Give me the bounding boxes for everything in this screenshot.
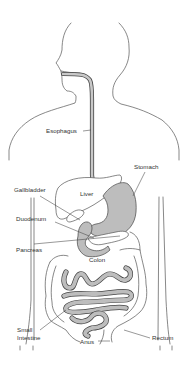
label-rectum: Rectum (152, 334, 173, 341)
label-colon: Colon (89, 256, 105, 263)
label-stomach: Stomach (134, 163, 158, 170)
label-pancreas: Pancreas (16, 246, 42, 253)
label-anus: Anus (80, 338, 94, 345)
label-liver: Liver (80, 190, 93, 197)
label-esophagus: Esophagus (46, 127, 77, 134)
label-duodenum: Duodenum (16, 215, 46, 222)
label-small-intestine-line2: Intestine (17, 334, 40, 341)
label-gallbladder: Gallbladder (14, 186, 46, 193)
small-intestine (64, 268, 132, 336)
label-small-intestine-line1: Small (17, 326, 32, 333)
digestive-system-diagram (0, 0, 189, 367)
rectum (100, 330, 104, 344)
